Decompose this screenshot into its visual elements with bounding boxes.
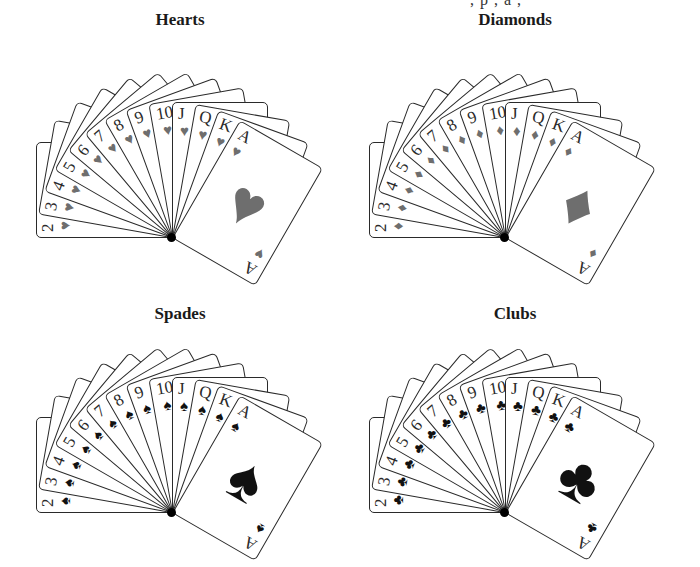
hearts-suit-icon: ♥ [228, 143, 243, 160]
diamonds-suit-icon: ♦ [530, 127, 540, 143]
card-rank: Q [198, 383, 213, 402]
hearts-suit-icon: ♥ [180, 124, 189, 139]
spades-suit-icon: ♠ [180, 399, 188, 414]
card-rank: 9 [465, 383, 479, 402]
card-rank: Q [198, 108, 213, 127]
diamonds-suit-icon-bottom: ♦ [586, 245, 600, 262]
card-fan: 2♦3♦4♦5♦6♦7♦8♦9♦10♦J♦Q♦K♦A♦♦A♦ [345, 10, 685, 280]
card-rank: 3 [375, 476, 393, 487]
card-rank: 9 [465, 108, 479, 127]
hearts-suit-icon: ♥ [58, 221, 73, 230]
clubs-suit-icon: ♣ [513, 399, 523, 414]
clubs-suit-icon: ♣ [391, 495, 406, 505]
card-fan: 2♣3♣4♣5♣6♣7♣8♣9♣10♣J♣Q♣K♣A♣♣A♣ [345, 310, 685, 567]
card-rank: J [178, 380, 185, 397]
spades-suit-icon: ♠ [58, 497, 73, 505]
clubs-suit-icon: ♣ [561, 418, 577, 436]
card-rank: J [511, 105, 518, 122]
fan-pivot-dot [167, 508, 176, 517]
card-rank: 2 [372, 499, 389, 508]
cropped-caption-text: , p , a , [470, 0, 522, 9]
card-fan: 2♥3♥4♥5♥6♥7♥8♥9♥10♥J♥Q♥K♥A♥♥A♥ [10, 10, 350, 280]
card-rank: J [178, 105, 185, 122]
card-rank: 2 [39, 224, 56, 233]
clubs-suit-icon-bottom: ♣ [584, 519, 600, 537]
diamonds-suit-icon: ♦ [495, 123, 505, 139]
card-rank: Q [531, 108, 546, 127]
spades-suit-icon: ♠ [162, 398, 172, 414]
card-rank: 3 [42, 201, 60, 212]
spades-suit-icon: ♠ [141, 400, 154, 417]
spades-suit-icon: ♠ [61, 477, 77, 487]
spades-suit-icon: ♠ [228, 418, 242, 435]
card-rank: 3 [375, 201, 393, 212]
panel-diamonds: Diamonds2♦3♦4♦5♦6♦7♦8♦9♦10♦J♦Q♦K♦A♦♦A♦ [345, 10, 685, 280]
card-rank: 2 [372, 224, 389, 233]
hearts-suit-icon-bottom: ♥ [252, 245, 267, 262]
hearts-suit-icon: ♥ [61, 202, 77, 213]
card-rank: 4 [382, 179, 401, 193]
card-rank: 9 [132, 108, 146, 127]
spades-suit-icon-bottom: ♠ [253, 520, 267, 537]
fan-pivot-dot [167, 233, 176, 242]
diamonds-suit-icon: ♦ [513, 124, 521, 139]
card-fan: 2♠3♠4♠5♠6♠7♠8♠9♠10♠J♠Q♠K♠A♠♠A♠ [10, 310, 350, 567]
panel-spades: Spades2♠3♠4♠5♠6♠7♠8♠9♠10♠J♠Q♠K♠A♠♠A♠ [10, 310, 350, 567]
card-rank: 4 [49, 179, 68, 193]
card-rank: 4 [49, 454, 68, 468]
card-rank: J [511, 380, 518, 397]
panel-clubs: Clubs2♣3♣4♣5♣6♣7♣8♣9♣10♣J♣Q♣K♣A♣♣A♣ [345, 310, 685, 567]
card-rank: Q [531, 383, 546, 402]
card-rank: 2 [39, 499, 56, 508]
card-rank: 3 [42, 476, 60, 487]
fan-pivot-dot [500, 508, 509, 517]
panel-hearts: Hearts2♥3♥4♥5♥6♥7♥8♥9♥10♥J♥Q♥K♥A♥♥A♥ [10, 10, 350, 280]
card-rank: 9 [132, 383, 146, 402]
diamonds-suit-icon: ♦ [391, 222, 406, 230]
spades-suit-icon: ♠ [197, 402, 207, 418]
diamonds-suit-icon: ♦ [561, 143, 575, 160]
diamonds-suit-icon: ♦ [394, 203, 410, 213]
fan-pivot-dot [500, 233, 509, 242]
diamonds-suit-icon: ♦ [474, 126, 486, 143]
card-rank: 4 [382, 454, 401, 468]
